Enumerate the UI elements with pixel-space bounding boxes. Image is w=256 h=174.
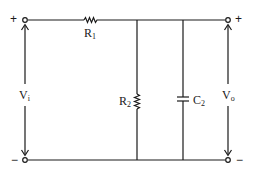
label-c2: C2 — [193, 94, 205, 106]
capacitor-c2-icon — [177, 20, 189, 160]
label-output-voltage: Vo — [222, 89, 235, 101]
circuit-schematic — [0, 0, 256, 174]
input-plus-sign: + — [10, 13, 17, 25]
output-minus-sign: − — [236, 154, 243, 166]
output-positive-terminal-icon — [226, 18, 231, 23]
input-positive-terminal-icon — [23, 18, 28, 23]
label-r1: R1 — [84, 27, 96, 39]
label-input-voltage: Vi — [19, 89, 30, 101]
resistor-r2-icon — [135, 20, 140, 160]
input-minus-sign: − — [11, 154, 18, 166]
output-negative-terminal-icon — [226, 158, 231, 163]
input-negative-terminal-icon — [23, 158, 28, 163]
output-plus-sign: + — [235, 13, 242, 25]
resistor-r1-icon — [84, 18, 98, 23]
label-r2: R2 — [119, 95, 131, 107]
